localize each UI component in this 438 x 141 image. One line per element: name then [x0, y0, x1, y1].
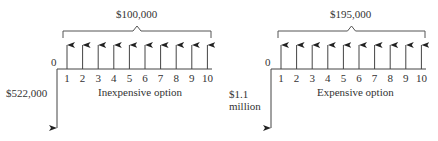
period-label: 6 [352, 72, 366, 84]
period-label: 10 [200, 72, 214, 84]
period-label: 10 [414, 72, 428, 84]
period-label: 2 [290, 72, 304, 84]
period-label: 1 [60, 72, 74, 84]
period-label: 9 [399, 72, 413, 84]
initial-cost-label-expensive-line1: $1.1 [229, 88, 248, 100]
period-label: 8 [383, 72, 397, 84]
zero-label-expensive: 0 [265, 56, 271, 68]
caption-inexpensive: Inexpensive option [98, 86, 182, 98]
initial-cost-label-inexpensive: $522,000 [6, 87, 47, 99]
period-label: 5 [122, 72, 136, 84]
period-label: 8 [169, 72, 183, 84]
period-label: 5 [336, 72, 350, 84]
annual-benefit-label-expensive: $195,000 [330, 8, 371, 20]
period-label: 4 [107, 72, 121, 84]
period-label: 9 [185, 72, 199, 84]
period-label: 7 [368, 72, 382, 84]
initial-cost-label-expensive-line2: million [229, 100, 261, 112]
annual-benefit-label-inexpensive: $100,000 [116, 8, 157, 20]
period-label: 3 [91, 72, 105, 84]
period-label: 4 [321, 72, 335, 84]
period-label: 3 [305, 72, 319, 84]
cash-flow-diagrams [0, 0, 438, 141]
zero-label-inexpensive: 0 [51, 56, 57, 68]
caption-expensive: Expensive option [317, 86, 394, 98]
period-label: 2 [76, 72, 90, 84]
period-label: 1 [274, 72, 288, 84]
period-label: 6 [138, 72, 152, 84]
period-label: 7 [154, 72, 168, 84]
